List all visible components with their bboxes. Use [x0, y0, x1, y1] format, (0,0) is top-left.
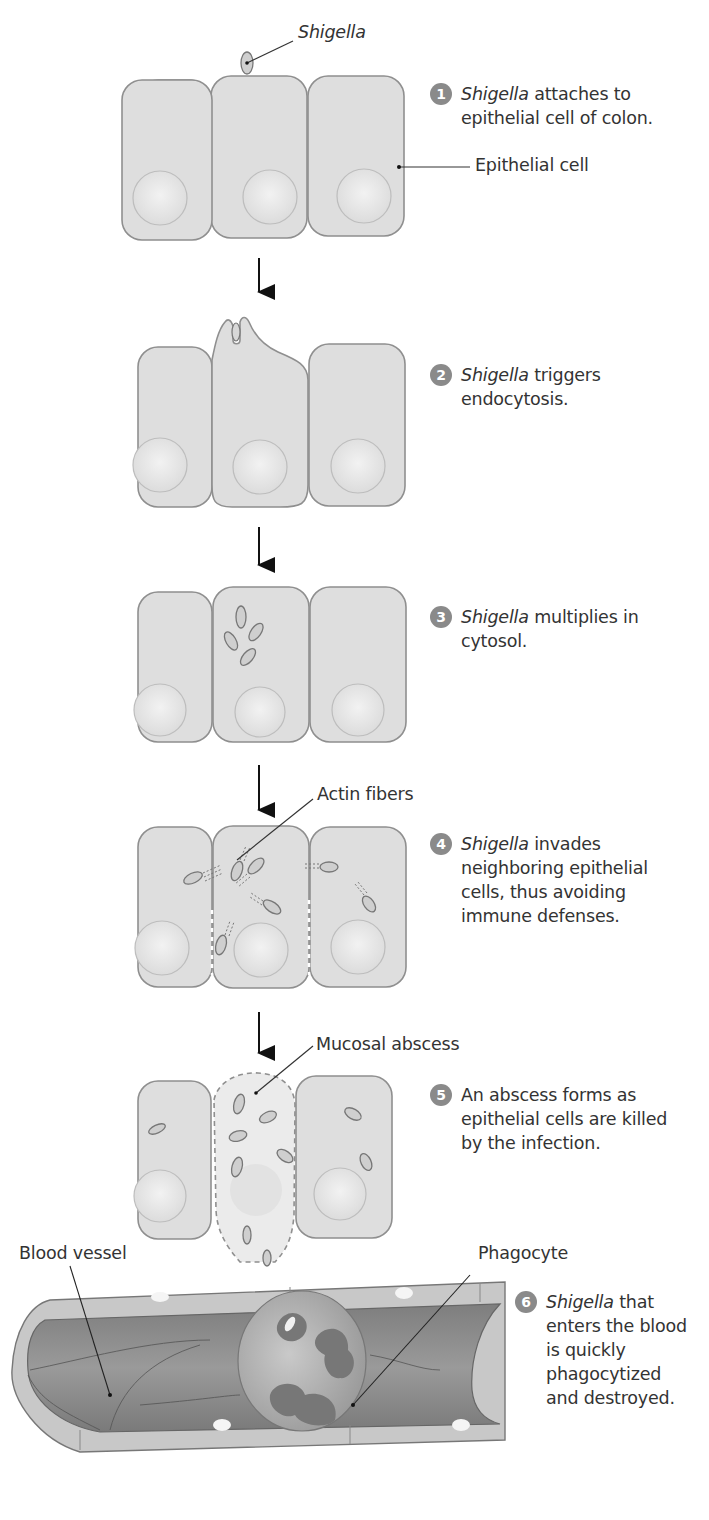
step-caption: Shigella that enters the blood is quickl…	[546, 1290, 695, 1410]
step-number-badge: 5	[430, 1084, 452, 1106]
step-number-badge: 6	[515, 1291, 537, 1313]
step-caption: Shigella triggers endocytosis.	[461, 363, 630, 411]
step-number-badge: 4	[430, 833, 452, 855]
step-3: 3 Shigella multiplies in cytosol.	[430, 605, 640, 653]
label-phagocyte: Phagocyte	[478, 1243, 568, 1263]
step-caption: Shigella attaches to epithelial cell of …	[461, 82, 700, 130]
label-epithelial-cell: Epithelial cell	[475, 155, 589, 175]
label-blood-vessel: Blood vessel	[19, 1243, 127, 1263]
step-caption: An abscess forms as epithelial cells are…	[461, 1083, 685, 1155]
step-6: 6 Shigella that enters the blood is quic…	[515, 1290, 695, 1410]
step-1: 1 Shigella attaches to epithelial cell o…	[430, 82, 700, 130]
label-actin-fibers: Actin fibers	[317, 784, 413, 804]
step-caption: Shigella multiplies in cytosol.	[461, 605, 640, 653]
step-4: 4 Shigella invades neighboring epithelia…	[430, 832, 675, 928]
step-number-badge: 2	[430, 364, 452, 386]
nucleus-group	[133, 169, 391, 225]
step-number-badge: 1	[430, 83, 452, 105]
phagocyte	[238, 1291, 366, 1431]
step-2: 2 Shigella triggers endocytosis.	[430, 363, 630, 411]
step-caption: Shigella invades neighboring epithelial …	[461, 832, 675, 928]
step-number-badge: 3	[430, 606, 452, 628]
label-shigella: Shigella	[298, 22, 366, 42]
label-mucosal-abscess: Mucosal abscess	[316, 1034, 459, 1054]
step-5: 5 An abscess forms as epithelial cells a…	[430, 1083, 685, 1155]
